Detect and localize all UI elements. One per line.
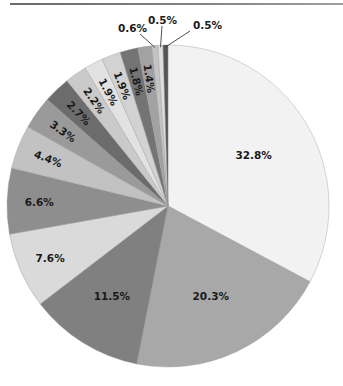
- leader-line: [166, 31, 191, 47]
- leader-line: [161, 26, 162, 47]
- slice-label: 7.6%: [36, 252, 66, 264]
- slice-label: 20.3%: [193, 290, 230, 302]
- leader-line: [140, 34, 155, 48]
- slice-label: 6.6%: [25, 196, 55, 208]
- pie-slices: [7, 45, 329, 367]
- leader-lines: [140, 26, 190, 48]
- slice-label: 0.5%: [148, 14, 178, 26]
- slice-label: 0.5%: [193, 19, 223, 31]
- slice-label: 0.6%: [118, 22, 148, 34]
- slice-label: 32.8%: [235, 149, 272, 161]
- slice-label: 11.5%: [94, 290, 131, 302]
- pie-chart: 32.8%20.3%11.5%7.6%6.6%4.4%3.3%2.7%2.2%1…: [0, 0, 343, 386]
